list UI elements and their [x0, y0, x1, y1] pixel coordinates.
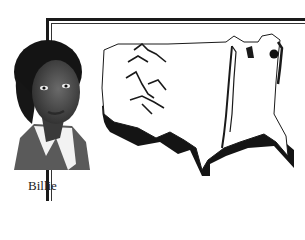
person-name-caption: Billie [28, 178, 57, 194]
portrait-photo [12, 38, 92, 170]
us-map-illustration [98, 28, 300, 178]
location-marker-icon [270, 50, 279, 59]
